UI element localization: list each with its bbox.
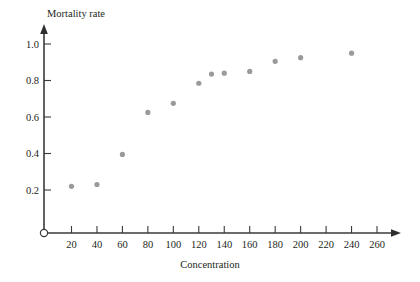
- data-point: [69, 184, 74, 189]
- origin-marker-icon: [40, 229, 47, 236]
- data-point-group: [69, 51, 354, 189]
- data-point: [349, 51, 354, 56]
- data-point: [222, 71, 227, 76]
- data-point: [247, 69, 252, 74]
- data-point: [196, 81, 201, 86]
- x-tick-label-240: 240: [344, 239, 360, 250]
- x-tick-label-120: 120: [191, 239, 207, 250]
- data-point: [273, 59, 278, 64]
- y-tick-label-0.8: 0.8: [26, 75, 39, 86]
- y-tick-label-0.6: 0.6: [26, 112, 39, 123]
- x-tick-label-200: 200: [293, 239, 309, 250]
- data-point: [94, 182, 99, 187]
- x-tick-label-160: 160: [242, 239, 258, 250]
- data-point: [145, 110, 150, 115]
- x-tick-label-80: 80: [143, 239, 154, 250]
- x-axis-tick-group: 20406080100120140160180200220240260: [66, 226, 385, 250]
- data-point: [209, 72, 214, 77]
- y-axis-title: Mortality rate: [47, 8, 105, 19]
- x-tick-label-220: 220: [318, 239, 334, 250]
- x-axis-title: Concentration: [180, 259, 240, 270]
- y-tick-label-0.2: 0.2: [26, 185, 39, 196]
- y-axis-tick-group: 0.20.40.60.81.0: [26, 39, 51, 196]
- x-tick-label-140: 140: [216, 239, 232, 250]
- x-tick-label-60: 60: [117, 239, 128, 250]
- chart-canvas: Mortality rate 0.20.40.60.81.0 204060801…: [0, 0, 420, 282]
- y-tick-label-0.4: 0.4: [26, 148, 40, 159]
- data-point: [171, 101, 176, 106]
- data-point: [120, 152, 125, 157]
- x-tick-label-100: 100: [165, 239, 181, 250]
- data-point: [298, 55, 303, 60]
- scatter-plot-figure: Mortality rate 0.20.40.60.81.0 204060801…: [0, 0, 420, 282]
- x-axis-arrow-icon: [391, 229, 401, 236]
- x-tick-label-20: 20: [66, 239, 77, 250]
- x-tick-label-40: 40: [92, 239, 103, 250]
- x-tick-label-260: 260: [369, 239, 385, 250]
- x-tick-label-180: 180: [267, 239, 283, 250]
- y-axis-arrow-icon: [40, 24, 48, 34]
- y-tick-label-1.0: 1.0: [26, 39, 39, 50]
